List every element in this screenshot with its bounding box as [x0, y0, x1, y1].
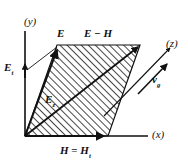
label-E: E	[57, 28, 64, 39]
label-Ez-subscript: z	[52, 101, 55, 108]
label-Ez: Ez	[45, 94, 55, 108]
label-H-equals-Ht: H = Ht	[60, 145, 91, 159]
label-Ht-base: H	[80, 144, 89, 156]
label-H-operator: =	[69, 144, 81, 156]
label-vg: vg	[152, 74, 160, 88]
label-Et: Et	[4, 62, 13, 76]
label-Et-subscript: t	[11, 69, 13, 76]
axis-label-y: (y)	[24, 16, 36, 27]
label-vg-subscript: g	[157, 81, 160, 88]
label-H-base: H	[60, 144, 69, 156]
label-E-minus-H: E − H	[84, 28, 112, 39]
axis-label-z: (z)	[166, 38, 178, 49]
axis-label-x: (x)	[152, 129, 164, 140]
label-Ht-subscript: t	[89, 152, 91, 159]
waveguide-field-diagram: (y) (x) (z) E E − H Et Ez H = Ht vg	[0, 0, 188, 164]
